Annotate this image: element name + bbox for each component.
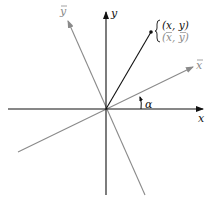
point-original-label: (x, y) [162, 19, 189, 31]
rotated-axes-diagram: x y x y α (x, y) (x, y) [0, 0, 212, 203]
point-brace [155, 20, 160, 42]
angle-label: α [145, 98, 153, 111]
x-bar-axis-label: x [196, 59, 203, 72]
angle-arc [140, 97, 141, 109]
x-axis-label: x [198, 112, 205, 125]
y-axis-label: y [110, 7, 118, 20]
y-bar-axis-label: y [59, 5, 67, 18]
diagram-canvas: x y x y α (x, y) (x, y) [0, 0, 212, 203]
point-dot [149, 30, 153, 34]
